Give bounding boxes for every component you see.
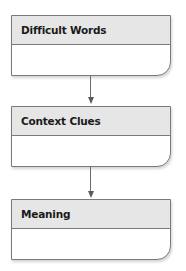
node-title: Difficult Words <box>12 16 170 45</box>
node-context-clues: Context Clues <box>11 106 171 167</box>
node-body <box>12 136 170 167</box>
node-body <box>12 45 170 76</box>
node-meaning: Meaning <box>11 199 171 260</box>
arrow-down-icon <box>88 97 94 104</box>
node-difficult-words: Difficult Words <box>11 15 171 76</box>
arrow-down-icon <box>88 191 94 198</box>
connector-line <box>90 76 91 98</box>
connector-line <box>90 167 91 192</box>
node-title: Context Clues <box>12 107 170 136</box>
node-body <box>12 229 170 260</box>
node-title: Meaning <box>12 200 170 229</box>
